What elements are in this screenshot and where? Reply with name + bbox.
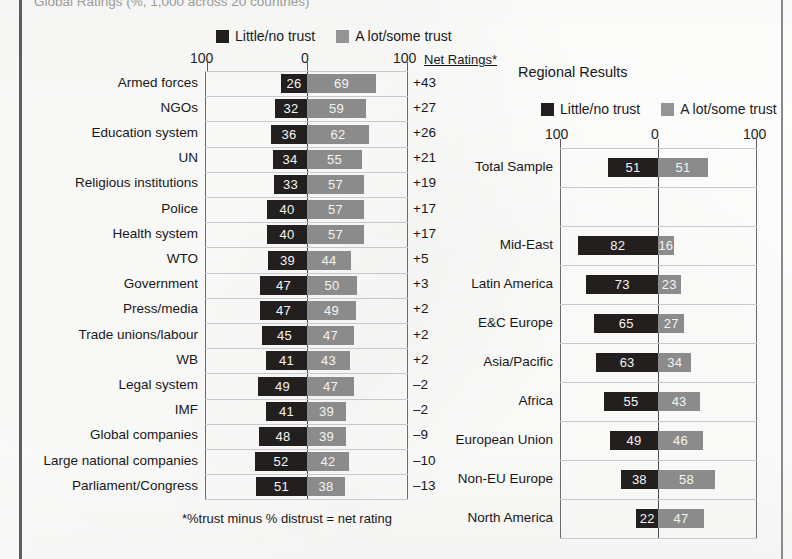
row-grid-line (560, 304, 757, 305)
category-label: UN (30, 150, 198, 165)
row-grid-line (205, 373, 408, 374)
category-label: IMF (30, 402, 198, 417)
bar-little-no-trust: 41 (266, 402, 307, 421)
row-grid-line (205, 247, 408, 248)
tick-zero (307, 62, 308, 71)
net-rating-value: –2 (413, 377, 447, 392)
bar-little-no-trust: 73 (586, 275, 658, 294)
page-caption: Global Ratings (%, 1,000 across 20 count… (34, 0, 454, 10)
net-rating-value: +43 (413, 75, 447, 90)
bar-a-lot-some-trust: 55 (307, 150, 362, 169)
tick-left (207, 62, 208, 71)
net-ratings-header: Net Ratings* (424, 52, 497, 67)
category-label: Total Sample (448, 159, 553, 174)
legend-swatch-little-no-trust (216, 30, 229, 43)
net-rating-value: +17 (413, 201, 447, 216)
net-rating-value: +2 (413, 327, 447, 342)
bar-little-no-trust: 52 (255, 452, 307, 471)
category-label: NGOs (30, 100, 198, 115)
category-label: Latin America (448, 276, 553, 291)
bar-little-no-trust: 36 (271, 125, 307, 144)
footnote-net-rating: *%trust minus % distrust = net rating (182, 511, 392, 526)
tick-zero (658, 139, 659, 148)
bar-a-lot-some-trust: 27 (658, 314, 684, 333)
row-grid-line (560, 382, 757, 383)
legend-label-a-lot-some-trust: A lot/some trust (355, 28, 451, 44)
legend-label-a-lot-some-trust-regional: A lot/some trust (680, 101, 776, 117)
category-label: Police (30, 201, 198, 216)
category-label: Legal system (30, 377, 198, 392)
net-rating-value: –10 (413, 453, 447, 468)
bar-little-no-trust: 39 (268, 251, 307, 270)
category-label: Armed forces (30, 75, 198, 90)
category-label: Trade unions/labour (30, 327, 198, 342)
page-right-rule (781, 0, 783, 559)
bar-a-lot-some-trust: 46 (658, 431, 703, 450)
bar-little-no-trust: 47 (260, 276, 307, 295)
row-grid-line (205, 197, 408, 198)
bar-little-no-trust: 33 (274, 175, 307, 194)
scanned-chart-page: Global Ratings (%, 1,000 across 20 count… (0, 0, 792, 559)
net-rating-value: –2 (413, 402, 447, 417)
bar-little-no-trust: 49 (610, 431, 658, 450)
category-label: E&C Europe (448, 315, 553, 330)
row-grid-line (560, 343, 757, 344)
row-grid-line (560, 499, 757, 500)
bar-little-no-trust: 51 (256, 477, 307, 496)
bar-a-lot-some-trust: 39 (307, 427, 346, 446)
bar-a-lot-some-trust: 57 (307, 200, 364, 219)
bar-a-lot-some-trust: 57 (307, 175, 364, 194)
row-grid-line (205, 298, 408, 299)
bar-little-no-trust: 55 (604, 392, 658, 411)
bar-a-lot-some-trust: 42 (307, 452, 349, 471)
row-grid-line (560, 460, 757, 461)
row-grid-line (205, 499, 408, 500)
net-rating-value: +5 (413, 251, 447, 266)
bar-a-lot-some-trust: 43 (658, 392, 700, 411)
legend-label-little-no-trust: Little/no trust (235, 28, 315, 44)
category-label: Non-EU Europe (448, 471, 553, 486)
row-grid-line (205, 323, 408, 324)
bar-little-no-trust: 26 (281, 74, 307, 93)
bar-a-lot-some-trust: 43 (307, 351, 350, 370)
bar-a-lot-some-trust: 57 (307, 225, 364, 244)
row-grid-line (560, 538, 757, 539)
bar-a-lot-some-trust: 34 (658, 353, 691, 372)
row-grid-line (205, 172, 408, 173)
legend-swatch-little-no-trust-regional (541, 103, 554, 116)
bar-a-lot-some-trust: 51 (658, 158, 708, 177)
category-label: Parliament/Congress (30, 478, 198, 493)
row-grid-line (205, 348, 408, 349)
bar-a-lot-some-trust: 38 (307, 477, 345, 496)
category-label: Education system (30, 125, 198, 140)
bar-little-no-trust: 22 (636, 509, 658, 528)
chart-frame-left (205, 71, 206, 499)
category-label: Government (30, 276, 198, 291)
row-grid-line (205, 222, 408, 223)
bar-little-no-trust: 41 (266, 351, 307, 370)
right-axis-label-100-right: 100 (743, 126, 766, 142)
bar-little-no-trust: 48 (259, 427, 307, 446)
net-rating-value: +2 (413, 352, 447, 367)
bar-little-no-trust: 40 (267, 200, 307, 219)
category-label: Health system (30, 226, 198, 241)
category-label: Press/media (30, 301, 198, 316)
chart-frame-right (407, 71, 408, 499)
bar-little-no-trust: 65 (594, 314, 658, 333)
bar-little-no-trust: 63 (596, 353, 658, 372)
row-grid-line (205, 147, 408, 148)
category-label: Large national companies (30, 453, 198, 468)
category-label: European Union (448, 432, 553, 447)
tick-right (756, 139, 757, 148)
bar-little-no-trust: 82 (578, 236, 658, 255)
bar-a-lot-some-trust: 58 (658, 470, 715, 489)
net-rating-value: +3 (413, 276, 447, 291)
category-label: Religious institutions (30, 175, 198, 190)
category-label: Mid-East (448, 237, 553, 252)
row-grid-line (205, 449, 408, 450)
net-rating-value: +19 (413, 175, 447, 190)
bar-little-no-trust: 34 (273, 150, 307, 169)
category-label: WB (30, 352, 198, 367)
row-grid-line (205, 121, 408, 122)
bar-little-no-trust: 32 (275, 99, 307, 118)
